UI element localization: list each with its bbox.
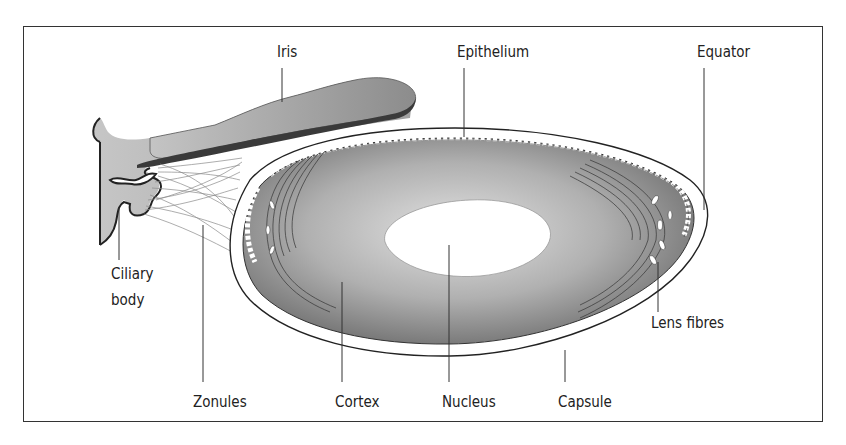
label-cortex: Cortex bbox=[335, 393, 380, 411]
label-ciliary-body-line1: Ciliary bbox=[111, 265, 153, 283]
label-epithelium: Epithelium bbox=[457, 43, 529, 61]
label-capsule: Capsule bbox=[558, 393, 612, 411]
label-nucleus: Nucleus bbox=[442, 393, 496, 411]
label-ciliary-body-line2: body bbox=[111, 291, 144, 309]
label-lens-fibres: Lens fibres bbox=[651, 314, 724, 332]
lens bbox=[230, 128, 708, 356]
lens-diagram bbox=[0, 0, 846, 445]
label-iris: Iris bbox=[277, 43, 297, 61]
zonule-fibres bbox=[144, 158, 242, 255]
label-equator: Equator bbox=[697, 43, 750, 61]
label-zonules: Zonules bbox=[193, 393, 247, 411]
